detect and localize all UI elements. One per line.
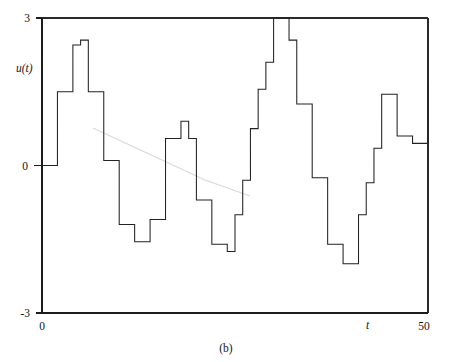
figure-container: 3 0 -3 u(t) t 0 50 (b) (0, 0, 451, 362)
x-tick-label-start: 0 (39, 320, 45, 332)
figure-caption: (b) (219, 342, 233, 355)
y-axis-label: u(t) (16, 62, 33, 75)
y-tick-label-zero: 0 (22, 160, 28, 172)
step-plot-chart: 3 0 -3 u(t) t 0 50 (b) (0, 0, 451, 362)
x-axis-label: t (366, 319, 370, 331)
y-tick-label-top: 3 (24, 12, 30, 24)
signal-step-trace (42, 18, 428, 264)
y-tick-label-bottom: -3 (20, 307, 30, 319)
x-tick-label-end: 50 (418, 320, 430, 332)
